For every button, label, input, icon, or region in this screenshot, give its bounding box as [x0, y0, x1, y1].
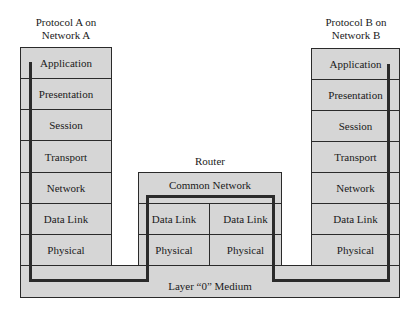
left-layer-session: Session	[20, 109, 112, 141]
layer-label: Physical	[227, 244, 264, 256]
layer-label: Application	[40, 57, 92, 69]
layer-label: Common Network	[169, 179, 251, 191]
layer-label: Network	[336, 182, 375, 194]
path-left-bottom	[29, 279, 149, 282]
layer-label: Session	[49, 119, 83, 131]
layer-label: Data Link	[44, 213, 88, 225]
medium-label: Layer “0” Medium	[168, 280, 252, 292]
layer-label: Network	[47, 182, 86, 194]
layer-label: Presentation	[328, 89, 382, 101]
left-stack-caption: Protocol A on Network A	[10, 16, 122, 42]
left-layer-application: Application	[20, 47, 112, 79]
right-stack-caption: Protocol B on Network B	[300, 16, 412, 42]
layer-label: Physical	[47, 244, 84, 256]
left-layer-physical: Physical	[20, 234, 112, 266]
left-layer-transport: Transport	[20, 140, 112, 173]
layer-label: Data Link	[152, 213, 196, 225]
layer-label: Transport	[334, 151, 376, 163]
layer-label: Transport	[45, 151, 87, 163]
left-layer-network: Network	[20, 172, 112, 204]
layer-label: Application	[330, 58, 382, 70]
layer-label: Session	[339, 120, 373, 132]
layer-label: Presentation	[39, 88, 93, 100]
left-layer-datalink: Data Link	[20, 203, 112, 235]
path-router-up	[146, 195, 149, 282]
path-right-vertical	[387, 64, 390, 282]
path-router-down	[272, 195, 275, 282]
router-common-network: Common Network	[138, 172, 282, 204]
path-right-bottom	[272, 279, 390, 282]
router-caption: Router	[160, 155, 260, 168]
layer-label: Data Link	[333, 213, 377, 225]
layer-label: Physical	[337, 244, 374, 256]
left-caption-line2: Network A	[10, 29, 122, 42]
layer-label: Data Link	[223, 213, 267, 225]
left-layer-presentation: Presentation	[20, 78, 112, 110]
layer-label: Physical	[155, 244, 192, 256]
left-caption-line1: Protocol A on	[10, 16, 122, 29]
right-caption-line1: Protocol B on	[300, 16, 412, 29]
path-router-top	[146, 195, 275, 198]
right-caption-line2: Network B	[300, 29, 412, 42]
path-left-vertical	[29, 62, 32, 282]
